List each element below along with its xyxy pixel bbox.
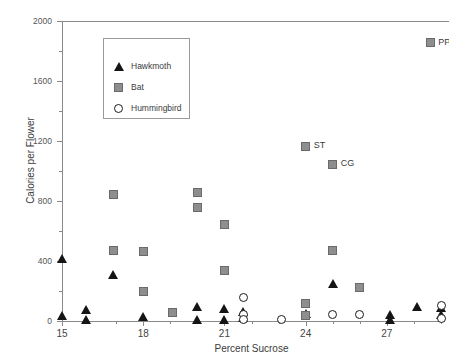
legend-marker-square-icon: [114, 83, 123, 92]
y-tick-2000: [57, 21, 63, 22]
x-minor-tick: [360, 321, 361, 324]
data-point-bat: [355, 283, 364, 292]
scatter-plot-figure: 04008001200160020001518212427 STCGPP Cal…: [0, 0, 449, 364]
data-point-bat: [301, 299, 310, 308]
y-tick-800: [57, 201, 63, 202]
y-minor-tick: [59, 51, 63, 52]
data-point-bat: [139, 247, 148, 256]
data-point-bat: [193, 203, 202, 212]
legend-box: HawkmothBatHummingbird: [103, 38, 190, 119]
y-minor-tick: [59, 111, 63, 112]
x-tick-label-18: 18: [128, 328, 158, 339]
y-minor-tick: [59, 171, 63, 172]
y-tick-label-2000: 2000: [16, 16, 52, 26]
annotated-point-pp: [426, 38, 435, 47]
x-minor-tick: [116, 321, 117, 324]
data-point-bat: [109, 246, 118, 255]
x-tick-15: [62, 321, 63, 326]
y-tick-label-1600: 1600: [16, 76, 52, 86]
point-label-st: ST: [314, 140, 326, 150]
data-point-bat: [193, 188, 202, 197]
plot-area: 04008001200160020001518212427 STCGPP Cal…: [0, 0, 449, 364]
data-point-hawkmoth: [192, 302, 202, 311]
data-point-hawkmoth: [328, 279, 338, 288]
annotated-point-cg: [328, 160, 337, 169]
data-point-hummingbird: [239, 293, 248, 302]
y-tick-1200: [57, 141, 63, 142]
x-tick-label-15: 15: [47, 328, 77, 339]
legend-marker-triangle-icon: [114, 62, 124, 71]
x-axis-title: Percent Sucrose: [62, 343, 441, 354]
data-point-hummingbird: [437, 314, 446, 323]
data-point-hawkmoth: [192, 315, 202, 324]
data-point-hawkmoth: [57, 254, 67, 263]
legend-label-hawkmoth: Hawkmoth: [131, 60, 171, 72]
data-point-bat: [301, 311, 310, 320]
data-point-hawkmoth: [108, 270, 118, 279]
data-point-hummingbird: [437, 301, 446, 310]
legend-marker-circle-icon: [114, 104, 123, 113]
data-point-hawkmoth: [219, 304, 229, 313]
x-minor-tick: [252, 321, 253, 324]
data-point-hummingbird: [239, 315, 248, 324]
top-border-line: [62, 21, 449, 22]
point-label-cg: CG: [341, 158, 355, 168]
data-point-hawkmoth: [138, 312, 148, 321]
y-minor-tick: [59, 291, 63, 292]
x-tick-label-27: 27: [372, 328, 402, 339]
y-minor-tick: [59, 231, 63, 232]
data-point-hawkmoth: [385, 315, 395, 324]
data-point-bat: [168, 308, 177, 317]
x-minor-tick: [414, 321, 415, 324]
x-minor-tick: [170, 321, 171, 324]
x-tick-label-24: 24: [291, 328, 321, 339]
data-point-hawkmoth: [81, 305, 91, 314]
x-tick-24: [306, 321, 307, 326]
data-point-hummingbird: [355, 310, 364, 319]
x-tick-18: [143, 321, 144, 326]
data-point-bat: [139, 287, 148, 296]
data-point-hummingbird: [328, 310, 337, 319]
data-point-hawkmoth: [81, 315, 91, 324]
x-tick-label-21: 21: [209, 328, 239, 339]
data-point-hawkmoth: [219, 315, 229, 324]
data-point-hummingbird: [277, 315, 286, 324]
data-point-bat: [220, 266, 229, 275]
point-label-pp: PP: [438, 37, 449, 47]
legend-label-bat: Bat: [131, 81, 144, 93]
y-tick-label-0: 0: [16, 316, 52, 326]
y-tick-label-400: 400: [16, 256, 52, 266]
annotated-point-st: [301, 142, 310, 151]
y-tick-1600: [57, 81, 63, 82]
legend-label-hummingbird: Hummingbird: [131, 102, 182, 114]
data-point-hawkmoth: [412, 302, 422, 311]
data-point-hawkmoth: [57, 311, 67, 320]
data-point-bat: [109, 190, 118, 199]
y-axis-title: Calories per Flower: [25, 91, 36, 231]
data-point-bat: [220, 220, 229, 229]
data-point-bat: [328, 246, 337, 255]
x-minor-tick: [333, 321, 334, 324]
